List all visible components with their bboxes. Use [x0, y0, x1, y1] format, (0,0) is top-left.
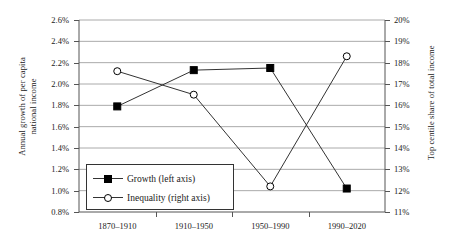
- y-axis-right-tickmark: [385, 41, 390, 42]
- y-axis-right-tick-label: 17%: [394, 80, 430, 89]
- x-axis-tick-label: 1990–2020: [302, 222, 392, 231]
- y-axis-right-tick-label: 13%: [394, 165, 430, 174]
- legend-label-inequality: Inequality (right axis): [123, 193, 210, 203]
- y-axis-left-tickmark: [74, 41, 79, 42]
- legend-item-inequality: Inequality (right axis): [93, 188, 227, 207]
- y-axis-right-tick-label: 18%: [394, 59, 430, 68]
- x-axis-tickmark: [156, 212, 157, 217]
- filled-square-marker-icon: [93, 173, 123, 185]
- y-axis-right-tickmark: [385, 148, 390, 149]
- y-axis-left-tick-label: 2.2%: [33, 59, 69, 68]
- data-point-inequality: [190, 91, 197, 98]
- y-axis-right-tickmark: [385, 84, 390, 85]
- y-axis-right-tickmark: [385, 169, 390, 170]
- y-axis-right-tickmark: [385, 127, 390, 128]
- y-axis-right-tickmark: [385, 212, 390, 213]
- y-axis-right-tickmark: [385, 191, 390, 192]
- data-point-growth: [343, 185, 350, 192]
- y-axis-left-tickmark: [74, 84, 79, 85]
- y-axis-right-tick-label: 19%: [394, 37, 430, 46]
- chart-container: Annual growth of per capita national inc…: [0, 0, 452, 242]
- y-axis-left-tick-label: 2.0%: [33, 80, 69, 89]
- open-circle-marker-icon: [93, 192, 123, 204]
- y-axis-right-tickmark: [385, 105, 390, 106]
- data-point-inequality: [114, 68, 121, 75]
- y-axis-left-tick-label: 1.0%: [33, 187, 69, 196]
- data-point-growth: [114, 103, 121, 110]
- y-axis-right-tick-label: 16%: [394, 101, 430, 110]
- legend-item-growth: Growth (left axis): [93, 169, 227, 188]
- data-point-growth: [190, 67, 197, 74]
- y-axis-left-tickmark: [74, 63, 79, 64]
- y-axis-left-tickmark: [74, 169, 79, 170]
- y-axis-left-tick-label: 1.2%: [33, 165, 69, 174]
- y-axis-left-tick-label: 1.8%: [33, 101, 69, 110]
- y-axis-left-tick-label: 2.6%: [33, 16, 69, 25]
- y-axis-left-tick-label: 0.8%: [33, 208, 69, 217]
- y-axis-right-tick-label: 14%: [394, 144, 430, 153]
- chart-legend: Growth (left axis) Inequality (right axi…: [86, 164, 234, 210]
- y-axis-left-tick-label: 1.6%: [33, 123, 69, 132]
- y-axis-right-tickmark: [385, 63, 390, 64]
- y-axis-right-tickmark: [385, 20, 390, 21]
- y-axis-right-tick-label: 11%: [394, 208, 430, 217]
- x-axis-tickmark: [232, 212, 233, 217]
- data-point-inequality: [343, 53, 350, 60]
- y-axis-left-tickmark: [74, 105, 79, 106]
- data-point-growth: [267, 65, 274, 72]
- y-axis-left-tickmark: [74, 148, 79, 149]
- y-axis-right-tick-label: 12%: [394, 187, 430, 196]
- y-axis-left-tickmark: [74, 20, 79, 21]
- y-axis-left-tick-label: 1.4%: [33, 144, 69, 153]
- data-point-inequality: [267, 183, 274, 190]
- x-axis-tickmark: [309, 212, 310, 217]
- y-axis-left-tickmark: [74, 127, 79, 128]
- y-axis-left-tickmark: [74, 191, 79, 192]
- y-axis-left-tick-label: 2.4%: [33, 37, 69, 46]
- legend-label-growth: Growth (left axis): [123, 174, 195, 184]
- y-axis-right-tick-label: 15%: [394, 123, 430, 132]
- y-axis-right-tick-label: 20%: [394, 16, 430, 25]
- y-axis-left-tickmark: [74, 212, 79, 213]
